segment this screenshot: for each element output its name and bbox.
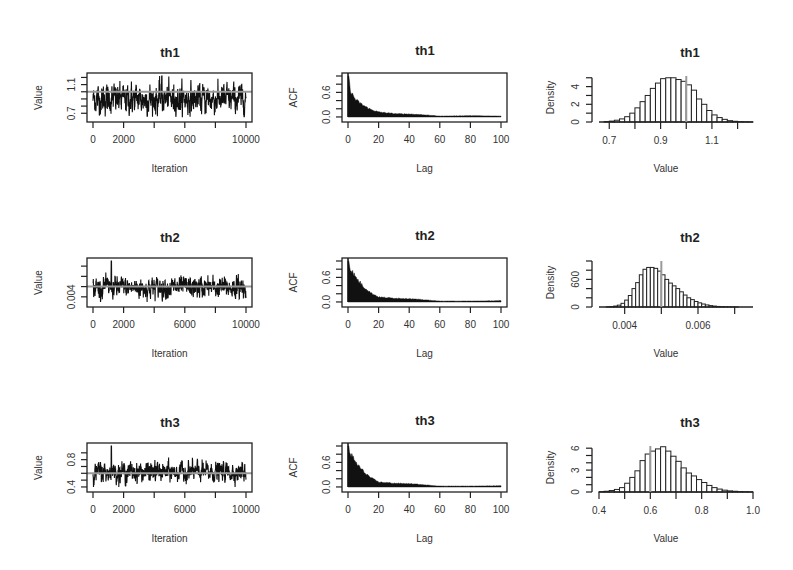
x-tick-label: 0.6 bbox=[643, 505, 657, 516]
x-axis-label: Value bbox=[654, 163, 679, 174]
x-tick-label: 0.8 bbox=[695, 505, 709, 516]
histogram-bar bbox=[686, 473, 691, 492]
x-tick-label: 1.0 bbox=[746, 505, 760, 516]
panel-title: th1 bbox=[680, 45, 700, 60]
panel-title: th1 bbox=[415, 43, 435, 58]
panel-th1-histogram: th10240.70.91.1ValueDensity bbox=[545, 45, 753, 174]
histogram-bar bbox=[669, 283, 673, 307]
acf-bars bbox=[348, 261, 501, 302]
x-tick-label: 100 bbox=[493, 134, 510, 145]
x-tick-label: 6000 bbox=[174, 319, 197, 330]
x-tick-label: 0.4 bbox=[592, 505, 606, 516]
y-axis-label: Value bbox=[33, 85, 44, 110]
histogram-bar bbox=[645, 95, 650, 122]
x-tick-label: 2000 bbox=[112, 134, 135, 145]
histogram-bar bbox=[661, 79, 666, 122]
histogram-bar bbox=[647, 267, 651, 307]
histogram-bar bbox=[691, 476, 696, 492]
trace-line bbox=[93, 76, 246, 117]
panel-title: th1 bbox=[160, 45, 180, 60]
x-tick-label: 2000 bbox=[112, 504, 135, 515]
histogram-bar bbox=[661, 447, 666, 492]
y-tick-label: 0.4 bbox=[66, 480, 77, 494]
panel-th1-acf: th10204060801000.00.6LagACF bbox=[288, 43, 510, 174]
x-axis-label: Value bbox=[654, 348, 679, 359]
x-axis-label: Iteration bbox=[151, 533, 187, 544]
panel-th3-trace: th3020006000100000.40.8IterationValue bbox=[33, 415, 260, 544]
panel-title: th3 bbox=[415, 413, 435, 428]
histogram-bar bbox=[671, 78, 676, 122]
y-tick-label: 3 bbox=[570, 467, 581, 473]
y-tick-label: 2 bbox=[570, 101, 581, 107]
histogram-bar bbox=[707, 111, 712, 123]
x-tick-label: 0 bbox=[90, 319, 96, 330]
y-axis-label: ACF bbox=[288, 273, 299, 293]
y-axis-label: Value bbox=[33, 270, 44, 295]
x-tick-label: 80 bbox=[465, 134, 477, 145]
histogram-bar bbox=[702, 483, 707, 492]
histogram-bar bbox=[625, 483, 630, 492]
histogram-bar bbox=[676, 289, 680, 307]
x-tick-label: 20 bbox=[373, 134, 385, 145]
y-axis-label: ACF bbox=[288, 88, 299, 108]
x-tick-label: 40 bbox=[404, 319, 416, 330]
y-axis-label: Density bbox=[545, 266, 556, 299]
x-tick-label: 60 bbox=[434, 319, 446, 330]
x-tick-label: 20 bbox=[373, 504, 385, 515]
histogram-bar bbox=[628, 296, 632, 308]
x-tick-label: 1.1 bbox=[705, 135, 719, 146]
x-axis-label: Lag bbox=[416, 163, 433, 174]
y-axis-label: Value bbox=[33, 455, 44, 480]
panel-th3-acf: th30204060801000.00.6LagACF bbox=[288, 413, 510, 544]
y-tick-label: 0 bbox=[570, 304, 581, 310]
x-tick-label: 10000 bbox=[232, 504, 260, 515]
x-tick-label: 0 bbox=[345, 134, 351, 145]
histogram-bar bbox=[640, 102, 645, 122]
y-tick-label: 0 bbox=[570, 119, 581, 125]
histogram-bar bbox=[650, 267, 654, 307]
panel-title: th2 bbox=[680, 230, 700, 245]
x-tick-label: 0 bbox=[345, 504, 351, 515]
x-tick-label: 2000 bbox=[112, 319, 135, 330]
trace-line bbox=[93, 446, 246, 487]
histogram-bar bbox=[632, 289, 636, 307]
x-tick-label: 80 bbox=[465, 319, 477, 330]
x-tick-label: 6000 bbox=[174, 504, 197, 515]
panel-th3-histogram: th30360.40.60.81.0ValueDensity bbox=[545, 415, 760, 544]
histogram-bar bbox=[702, 104, 707, 122]
histogram-bar bbox=[640, 461, 645, 492]
histogram-bar bbox=[635, 108, 640, 122]
histogram-bar bbox=[676, 461, 681, 492]
histogram-bar bbox=[691, 300, 695, 307]
histogram-bar bbox=[635, 471, 640, 492]
histogram-bar bbox=[671, 456, 676, 492]
y-axis-label: Density bbox=[545, 81, 556, 114]
histogram-bar bbox=[654, 268, 658, 307]
histogram-bar bbox=[655, 83, 660, 122]
histogram-bar bbox=[672, 286, 676, 307]
histogram-bar bbox=[676, 80, 681, 122]
mcmc-diagnostics-figure: th1020006000100000.71.1IterationValueth1… bbox=[0, 0, 793, 570]
x-tick-label: 20 bbox=[373, 319, 385, 330]
x-tick-label: 60 bbox=[434, 134, 446, 145]
y-tick-label: 0.0 bbox=[321, 480, 332, 494]
y-tick-label: 6 bbox=[570, 445, 581, 451]
panel-th2-acf: th20204060801000.00.6LagACF bbox=[288, 228, 510, 359]
x-tick-label: 6000 bbox=[174, 134, 197, 145]
x-tick-label: 10000 bbox=[232, 134, 260, 145]
panel-title: th3 bbox=[160, 415, 180, 430]
x-tick-label: 0 bbox=[345, 319, 351, 330]
y-tick-label: 600 bbox=[570, 271, 581, 288]
x-tick-label: 100 bbox=[493, 319, 510, 330]
x-tick-label: 60 bbox=[434, 504, 446, 515]
y-tick-label: 0.004 bbox=[66, 284, 77, 309]
y-axis-label: Density bbox=[545, 451, 556, 484]
y-tick-label: 0 bbox=[570, 489, 581, 495]
histogram-bar bbox=[665, 279, 669, 307]
histogram-bar bbox=[707, 485, 712, 492]
x-tick-label: 0.006 bbox=[685, 320, 710, 331]
histogram-bar bbox=[691, 90, 696, 122]
y-tick-label: 0.6 bbox=[321, 455, 332, 469]
histogram-bar bbox=[697, 480, 702, 492]
x-tick-label: 80 bbox=[465, 504, 477, 515]
